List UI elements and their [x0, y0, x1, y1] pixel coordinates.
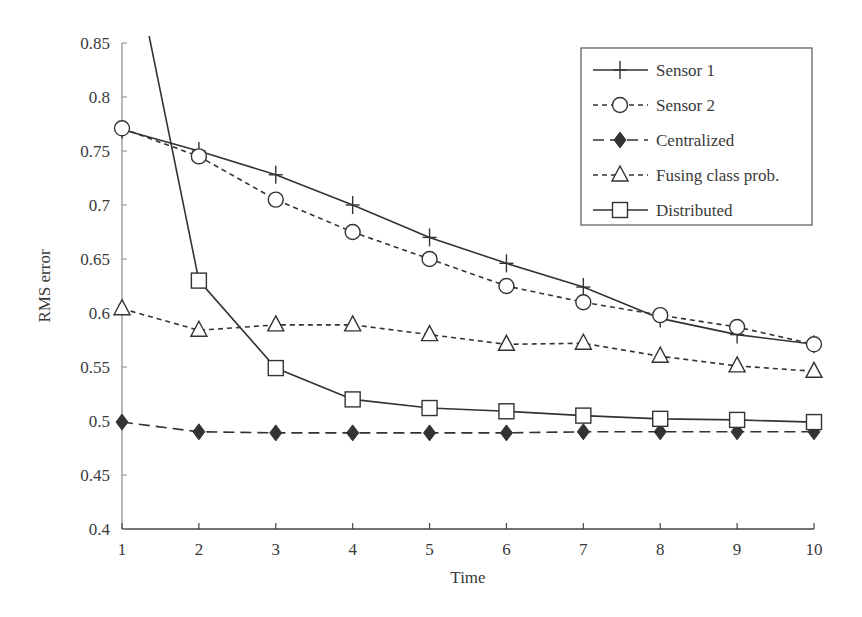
legend-item: Distributed: [593, 201, 733, 220]
series-fusing-class-prob: [114, 300, 822, 378]
data-point: [115, 121, 130, 136]
data-point: [499, 404, 514, 419]
data-point: [807, 415, 822, 430]
legend-label: Distributed: [656, 201, 733, 220]
data-point: [577, 424, 589, 440]
y-tick-label: 0.7: [89, 196, 111, 215]
data-point: [191, 149, 206, 164]
data-point: [576, 295, 591, 310]
series-centralized: [116, 414, 820, 441]
legend: Sensor 1Sensor 2CentralizedFusing class …: [581, 48, 812, 225]
data-point: [422, 401, 437, 416]
data-point: [345, 225, 360, 240]
x-tick-label: 6: [502, 540, 511, 559]
y-tick-label: 0.5: [89, 412, 110, 431]
y-tick-label: 0.65: [80, 250, 110, 269]
x-tick-label: 2: [195, 540, 204, 559]
y-tick-label: 0.85: [80, 34, 110, 53]
data-point: [499, 279, 514, 294]
x-tick-label: 5: [425, 540, 434, 559]
y-tick-label: 0.8: [89, 88, 110, 107]
y-tick-label: 0.45: [80, 466, 110, 485]
data-point: [193, 424, 205, 440]
legend-label: Centralized: [656, 131, 735, 150]
x-tick-label: 3: [272, 540, 281, 559]
data-point: [806, 362, 822, 377]
data-point: [191, 273, 206, 288]
x-tick-label: 1: [118, 540, 127, 559]
y-tick-label: 0.55: [80, 358, 110, 377]
legend-label: Fusing class prob.: [656, 166, 779, 185]
data-point: [268, 316, 284, 331]
data-point: [730, 412, 745, 427]
y-tick-label: 0.75: [80, 142, 110, 161]
x-tick-label: 10: [806, 540, 823, 559]
data-point: [270, 425, 282, 441]
legend-label: Sensor 1: [656, 61, 715, 80]
x-tick-label: 7: [579, 540, 588, 559]
data-point: [346, 196, 360, 214]
data-point: [114, 300, 130, 315]
y-tick-label: 0.4: [89, 520, 111, 539]
data-point: [345, 392, 360, 407]
x-tick-label: 8: [656, 540, 665, 559]
data-point: [575, 334, 591, 349]
data-point: [807, 337, 822, 352]
line-chart: 0.40.450.50.550.60.650.70.750.80.85 1234…: [0, 0, 862, 617]
y-tick-label: 0.6: [89, 304, 110, 323]
data-point: [268, 192, 283, 207]
data-point: [422, 326, 438, 341]
data-point: [347, 425, 359, 441]
data-point: [653, 411, 668, 426]
data-point: [500, 425, 512, 441]
legend-label: Sensor 2: [656, 96, 715, 115]
x-axis-title: Time: [450, 568, 485, 587]
y-axis-ticks: 0.40.450.50.550.60.650.70.750.80.85: [80, 34, 127, 539]
data-point: [116, 414, 128, 430]
data-point: [424, 425, 436, 441]
x-tick-label: 4: [348, 540, 357, 559]
data-point: [576, 278, 590, 296]
data-point: [653, 308, 668, 323]
data-point: [498, 335, 514, 350]
data-point: [423, 228, 437, 246]
x-tick-label: 9: [733, 540, 742, 559]
data-point: [730, 320, 745, 335]
data-point: [269, 166, 283, 184]
data-point: [268, 361, 283, 376]
y-axis-title: RMS error: [35, 249, 54, 323]
data-point: [499, 254, 513, 272]
data-point: [576, 408, 591, 423]
data-point: [422, 252, 437, 267]
data-point: [652, 347, 668, 362]
data-point: [345, 316, 361, 331]
